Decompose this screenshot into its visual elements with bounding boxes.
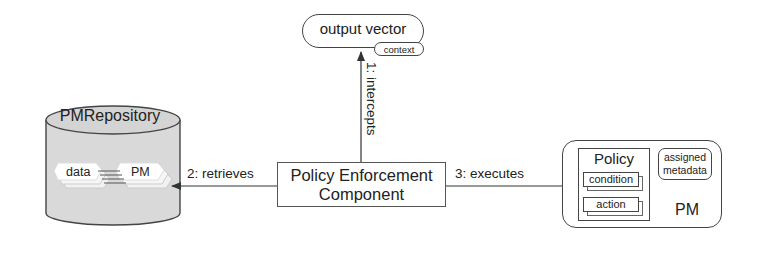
assigned-metadata: assigned metadata xyxy=(658,148,712,180)
edge-label-executes: 3: executes xyxy=(455,166,524,181)
pec-line-1: Policy Enforcement xyxy=(278,166,445,185)
policy-enforcement-component: Policy Enforcement Component xyxy=(277,162,446,207)
edge-label-intercepts: 1: intercepts xyxy=(364,62,379,136)
action-part: action xyxy=(583,197,639,212)
repository-title: PMRepository xyxy=(50,107,170,125)
repository-item-pm: PM xyxy=(131,165,150,179)
context-badge: context xyxy=(374,42,424,56)
condition-part: condition xyxy=(583,172,639,187)
edge-label-retrieves: 2: retrieves xyxy=(187,166,254,181)
assigned-metadata-line-1: assigned xyxy=(659,151,711,164)
assigned-metadata-line-2: metadata xyxy=(659,164,711,177)
repository-item-data: data xyxy=(66,165,90,179)
pec-line-2: Component xyxy=(278,185,445,204)
policy-title: Policy xyxy=(578,150,650,167)
pm-label: PM xyxy=(675,201,699,219)
output-vector-label: output vector xyxy=(303,20,423,37)
